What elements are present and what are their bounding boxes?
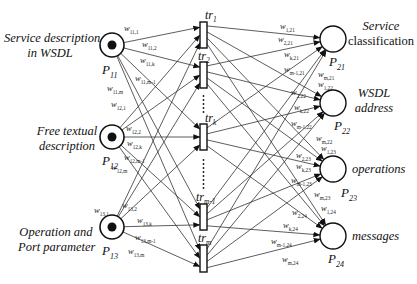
transition-tr2: [200, 62, 207, 88]
tr1-label-sub: 1: [213, 15, 217, 24]
weight-wk-22: wk,22: [294, 103, 309, 114]
weight-sub: m-1,21: [290, 70, 305, 76]
weight-w2-24: w2,24: [292, 208, 307, 219]
token-dot-icon: [108, 223, 117, 232]
p22-label: P22: [334, 119, 350, 136]
arc-trm-P23: [207, 177, 323, 262]
weight-wk-24: wk,24: [283, 221, 298, 232]
p13-label-base: P: [102, 243, 110, 258]
place-P24: [320, 223, 346, 249]
weight-sub: 11,m-1: [141, 79, 156, 85]
p22-description-line2: address: [350, 102, 398, 115]
weight-sub: k,24: [289, 226, 298, 232]
weight-sub: 2,23: [302, 156, 311, 162]
transition-tr1: [200, 22, 207, 48]
weight-sub: m-1,24: [277, 242, 292, 248]
p13-description: Operation and Port parameter: [18, 226, 94, 253]
weight-sub: 1,22: [324, 85, 333, 91]
weight-w13-k: w13,k: [137, 216, 152, 227]
trk-label-sub: k: [213, 118, 216, 127]
arc-tr2-P21: [207, 42, 320, 66]
p22-label-sub: 22: [342, 127, 350, 136]
p22-description-line1: WSDL: [350, 87, 398, 100]
weight-wk-21: wk,21: [284, 50, 299, 61]
trm-label-base: tr: [198, 231, 206, 245]
arc-trm-P24: [207, 239, 320, 268]
weight-wm-1-22: wm-1,22: [291, 119, 312, 130]
p11-label-sub: 11: [110, 71, 117, 80]
trm-1-label: trm-1: [196, 191, 216, 206]
weight-sub: 12,m: [117, 168, 128, 174]
place-P22: [320, 90, 346, 116]
weight-sub: 12,1: [117, 105, 126, 111]
weight-sub: m-1,22: [297, 124, 312, 130]
trm-1-label-sub: m-1: [204, 197, 216, 206]
tr1-label-base: tr: [205, 8, 213, 22]
p11-description: Service description in WSDL: [4, 32, 96, 59]
weight-sub: 13,2: [128, 206, 137, 212]
weight-sub: 13,m-1: [141, 238, 156, 244]
trm-label-sub: m: [206, 238, 211, 247]
arc-tr1-P21: [207, 26, 320, 38]
trk-label-base: tr: [205, 111, 213, 125]
weight-w11-1: w11,1: [124, 24, 139, 35]
weight-w1-21: w1,21: [280, 22, 295, 33]
transition-trk: [200, 124, 207, 150]
weight-sub: 1,24: [327, 209, 336, 215]
weight-sub: 11,1: [130, 29, 139, 35]
arc-P11-tr2: [124, 48, 200, 67]
arc-trm-1-P24: [207, 226, 320, 235]
place-P21: [320, 26, 346, 52]
p13-label: P13: [102, 244, 118, 261]
arc-P11-trk: [121, 53, 200, 129]
weight-wm-1-21: wm-1,21: [284, 65, 305, 76]
weight-sub: 11,k: [146, 61, 155, 67]
token-dot-icon: [108, 41, 117, 50]
weight-sub: 2,22: [297, 93, 306, 99]
weight-sub: m,24: [288, 260, 299, 266]
arc-trm-P21: [207, 50, 326, 249]
weight-w12-2: w12,2: [126, 124, 141, 135]
weight-w12-k: w12,k: [127, 139, 142, 150]
p11-label: P11: [102, 63, 117, 80]
weight-w1-23: w1,23: [321, 144, 336, 155]
weight-w1-24: w1,24: [321, 204, 336, 215]
weight-w12-1: w12,1: [111, 100, 126, 111]
place-P11: [100, 33, 124, 57]
p12-description: Free textual description: [36, 125, 98, 152]
p13-label-sub: 13: [110, 252, 118, 261]
weight-sub: 13,m: [134, 252, 145, 258]
weight-w13-m-1: w13,m-1: [135, 233, 156, 244]
place-P12: [100, 125, 124, 149]
p24-description: messages: [352, 230, 399, 243]
weight-sub: 12,2: [132, 129, 141, 135]
trm-1-label-base: tr: [196, 190, 204, 204]
p21-description-line2: classification: [346, 35, 416, 48]
tr2-label-base: tr: [198, 49, 206, 63]
weight-w11-m: w11,m: [107, 84, 123, 95]
p23-description-line1: operations: [352, 163, 405, 176]
weight-w13-1: w13,1: [94, 206, 109, 217]
p13-description-line1: Operation and: [18, 226, 94, 239]
weight-w2-22: w2,22: [291, 88, 306, 99]
weight-w12-m: w12,m: [111, 163, 127, 174]
trm-label: trm: [198, 232, 211, 247]
arc-tr1-P23: [207, 38, 324, 160]
weight-sub: 12,k: [133, 144, 142, 150]
p12-description-line2: description: [36, 140, 98, 153]
p24-label: P24: [328, 252, 344, 269]
weight-wk-23: wk,23: [296, 162, 311, 173]
p11-description-line1: Service description: [4, 32, 96, 45]
weight-wm-23: wm,23: [314, 190, 330, 201]
p11-label-base: P: [102, 62, 110, 77]
weight-sub: 2,24: [298, 213, 307, 219]
output-arcs: [207, 26, 326, 268]
p23-description: operations: [352, 163, 405, 176]
p22-description: WSDL address: [350, 87, 398, 114]
weight-w11-2: w11,2: [142, 40, 157, 51]
weight-sub: m,23: [320, 195, 331, 201]
token-dot-icon: [108, 133, 117, 142]
tr2-label: tr2: [198, 50, 210, 65]
weight-sub: 12,m-1: [130, 158, 145, 164]
tr1-label: tr1: [205, 9, 217, 24]
